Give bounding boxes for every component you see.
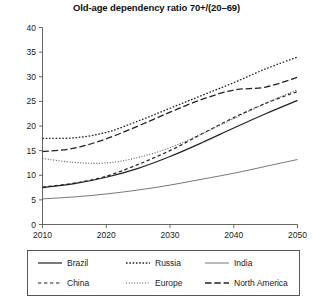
series-line-brazil xyxy=(43,100,298,187)
y-tick-label: 15 xyxy=(27,146,37,156)
x-tick-label: 2040 xyxy=(224,230,243,240)
chart-legend: BrazilRussiaIndiaChinaEuropeNorth Americ… xyxy=(28,251,300,296)
y-tick-label: 0 xyxy=(31,220,36,230)
series-line-europe xyxy=(43,90,298,164)
legend-label-india: India xyxy=(234,258,253,268)
series-line-china xyxy=(43,92,298,188)
y-axis: 0510152025303540 xyxy=(27,23,43,230)
y-tick-label: 25 xyxy=(27,96,37,106)
x-tick-label: 2020 xyxy=(97,230,116,240)
legend-label-russia: Russia xyxy=(155,258,181,268)
y-tick-label: 40 xyxy=(27,23,37,33)
legend-label-brazil: Brazil xyxy=(67,258,88,268)
chart-plot: 0510152025303540 20102020203020402050 Br… xyxy=(0,0,313,304)
legend-label-north-america: North America xyxy=(234,278,288,288)
x-tick-label: 2010 xyxy=(33,230,52,240)
series-line-russia xyxy=(43,57,298,138)
y-tick-label: 5 xyxy=(31,195,36,205)
chart-container: Old-age dependency ratio 70+/(20–69) 051… xyxy=(0,0,313,304)
legend-label-china: China xyxy=(67,278,89,288)
x-axis: 20102020203020402050 xyxy=(33,225,307,241)
series-lines xyxy=(43,57,298,199)
x-tick-label: 2050 xyxy=(288,230,307,240)
y-tick-label: 30 xyxy=(27,72,37,82)
legend-label-europe: Europe xyxy=(155,278,183,288)
series-line-north-america xyxy=(43,77,298,151)
y-tick-label: 35 xyxy=(27,47,37,57)
y-tick-label: 10 xyxy=(27,170,37,180)
x-tick-label: 2030 xyxy=(161,230,180,240)
y-tick-label: 20 xyxy=(27,121,37,131)
series-line-india xyxy=(43,159,298,198)
